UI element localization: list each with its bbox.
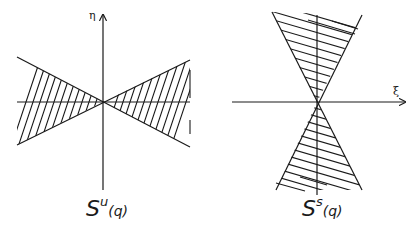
stable-cone-figure	[232, 0, 405, 204]
caption-unstable-arg: (q)	[108, 203, 128, 219]
hatching-bottom	[260, 92, 370, 204]
eta-axis-label: η	[89, 9, 96, 22]
caption-unstable: Su(q)	[86, 196, 128, 221]
caption-stable: Ss(q)	[302, 196, 343, 221]
hatching-left	[10, 60, 110, 150]
hatching-right	[100, 60, 200, 150]
cone-diagrams	[0, 0, 415, 233]
xi-axis-label: ξ	[393, 85, 399, 98]
unstable-cone-figure	[10, 15, 200, 190]
caption-unstable-sup: u	[100, 194, 108, 209]
caption-stable-base: S	[302, 196, 316, 221]
hatching-top	[260, 0, 370, 112]
caption-stable-sup: s	[316, 194, 323, 209]
caption-unstable-base: S	[86, 196, 100, 221]
caption-stable-arg: (q)	[323, 203, 343, 219]
